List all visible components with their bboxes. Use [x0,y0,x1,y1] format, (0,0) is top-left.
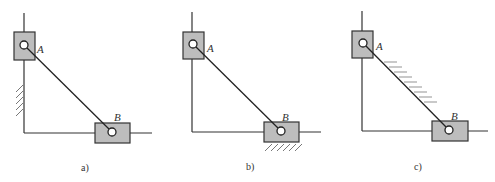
label-a: A [375,40,383,52]
caption-b: b) [246,161,254,173]
rod-ab [193,44,281,131]
pin-a-icon [359,39,367,47]
rod-ab [24,45,112,132]
pin-b-icon [445,126,453,134]
pin-b-icon [277,127,285,135]
caption-a: a) [81,162,89,174]
label-a: A [36,43,44,55]
pin-a-icon [20,41,28,49]
label-b: B [451,110,458,122]
pin-b-icon [108,128,116,136]
diagram-a: A B a) [14,13,152,174]
label-b: B [282,111,289,123]
mechanism-figure: A B a) A B b) [0,0,495,182]
label-a: A [206,42,214,54]
diagram-c: A B c) [352,11,488,173]
rod-hatching [384,62,437,102]
rod-ab [363,43,449,130]
diagram-b: A B b) [183,12,321,173]
label-b: B [114,111,121,123]
wall-hatching [16,85,23,116]
ground-hatching [265,144,302,151]
caption-c: c) [414,161,422,173]
pin-a-icon [189,40,197,48]
